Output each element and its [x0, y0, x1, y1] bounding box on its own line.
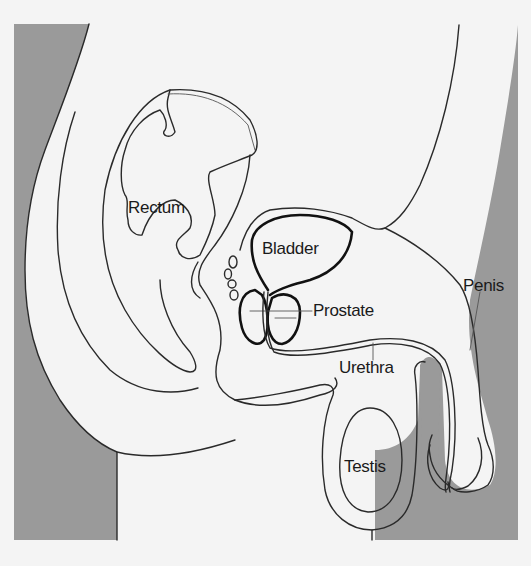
anatomy-diagram	[0, 0, 531, 566]
label-penis: Penis	[463, 276, 504, 296]
label-prostate: Prostate	[313, 301, 374, 321]
label-urethra: Urethra	[339, 358, 394, 378]
label-bladder: Bladder	[262, 239, 319, 259]
label-rectum: Rectum	[128, 198, 185, 218]
label-testis: Testis	[344, 457, 386, 477]
